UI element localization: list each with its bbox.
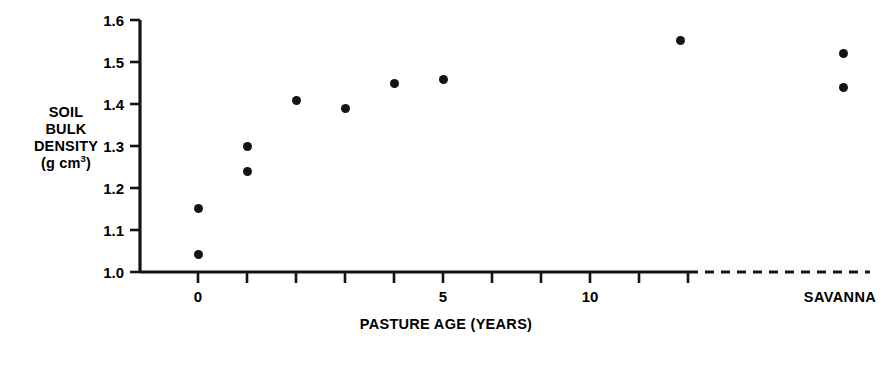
data-point [676,36,685,45]
data-point-savanna [839,83,848,92]
data-point [243,167,252,176]
data-point [341,104,350,113]
y-tick-label-1.0: 1.0 [78,264,124,281]
data-point [243,142,252,151]
axis-lines [0,0,892,367]
y-tick-label-1.5: 1.5 [78,54,124,71]
data-point [439,75,448,84]
data-point [292,96,301,105]
data-point [194,204,203,213]
x-axis-ticks [198,272,688,283]
x-tick-label-5: 5 [439,288,447,305]
figure-scatter-soil-bulk-density: SOIL BULK DENSITY (g cm3) PASTURE AGE (Y… [0,0,892,367]
y-tick-label-1.2: 1.2 [78,180,124,197]
x-tick-label-0: 0 [194,288,202,305]
y-tick-label-1.3: 1.3 [78,138,124,155]
x-tick-label-10: 10 [582,288,599,305]
data-point [390,79,399,88]
y-tick-label-1.4: 1.4 [78,96,124,113]
data-point [194,250,203,259]
y-tick-label-1.1: 1.1 [78,222,124,239]
y-tick-label-1.6: 1.6 [78,12,124,29]
x-category-label-savanna: SAVANNA [804,289,876,305]
data-point-savanna [839,49,848,58]
